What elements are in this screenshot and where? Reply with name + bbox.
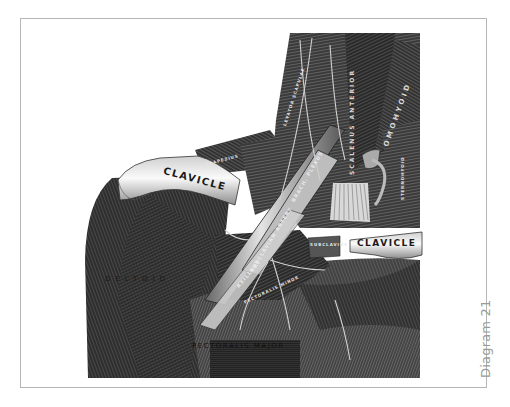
label-scalenus-anterior: SCALENUS ANTERIOR (348, 69, 355, 175)
label-deltoid: DELTOID (105, 275, 170, 283)
label-sternohyoid: STERNOHYOID (400, 157, 405, 200)
label-clavicle-right: CLAVICLE (357, 238, 417, 248)
diagram-caption: Diagram 21 (478, 300, 493, 379)
label-pectoralis-major: PECTORALIS MAJOR (192, 342, 285, 350)
label-subclavius: SUBCLAVIUS (310, 242, 348, 247)
